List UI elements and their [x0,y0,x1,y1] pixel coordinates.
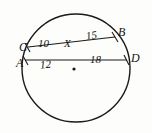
circle-outline [22,14,130,122]
segment-measure-cx: 10 [38,38,49,49]
point-label-a: A [16,57,23,69]
point-label-c: C [19,41,27,53]
point-label-d: D [131,52,140,64]
segment-measure-ax: 12 [40,59,52,71]
circle-center-dot [72,67,75,70]
point-label-x: X [64,38,71,49]
point-label-b: B [118,26,125,38]
segment-measure-xd: 18 [90,54,101,65]
segment-measure-xb: 15 [85,29,98,42]
geometry-figure: C A B D X 10 15 12 18 [0,0,152,133]
